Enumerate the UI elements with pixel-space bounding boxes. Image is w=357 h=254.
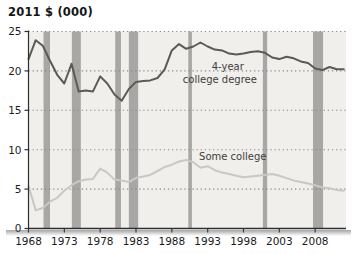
x-tick-label: 1993 (194, 235, 221, 247)
chart-canvas: 1968197319781983198819931998200320080510… (0, 0, 357, 254)
x-tick-label: 1988 (158, 235, 185, 247)
x-tick-label: 1968 (15, 235, 42, 247)
recession-band (72, 32, 81, 229)
x-tick-label: 1998 (230, 235, 257, 247)
recession-band (115, 32, 121, 229)
recession-band (129, 32, 138, 229)
recession-band (44, 32, 50, 229)
y-tick-label: 10 (8, 144, 21, 156)
x-tick-label: 1983 (123, 235, 150, 247)
y-tick-label: 15 (8, 104, 21, 116)
y-tick-label: 0 (15, 222, 22, 234)
recession-band (188, 32, 192, 229)
series-label-college-degree: college degree (183, 74, 257, 85)
series-label-4-year: 4-year (212, 61, 245, 72)
x-tick-label: 2008 (302, 235, 329, 247)
earnings-line-chart: 2011 $ (000) 196819731978198319881993199… (0, 0, 357, 254)
recession-band (263, 32, 267, 229)
x-tick-label: 2003 (266, 235, 293, 247)
series-label-some-college: Some college (199, 151, 266, 162)
recession-band (313, 32, 323, 229)
x-tick-label: 1978 (87, 235, 114, 247)
x-tick-label: 1973 (51, 235, 78, 247)
y-tick-label: 25 (8, 25, 21, 37)
y-tick-label: 5 (15, 183, 22, 195)
y-tick-label: 20 (8, 65, 21, 77)
